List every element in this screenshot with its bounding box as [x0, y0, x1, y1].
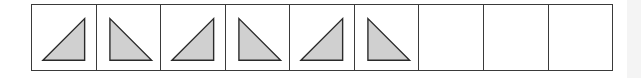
sequence-cell-1 [32, 5, 97, 70]
sequence-cell-5 [290, 5, 355, 70]
sequence-cell-2 [97, 5, 162, 70]
diagram-canvas [0, 0, 641, 78]
sequence-cell-4 [226, 5, 291, 70]
page-edge-shade [627, 0, 641, 78]
right-triangle-bottom-right-icon [161, 5, 225, 70]
right-triangle-bottom-left-icon [355, 5, 419, 70]
right-triangle-bottom-right-icon [32, 5, 96, 70]
sequence-cell-3 [161, 5, 226, 70]
right-triangle-bottom-left-icon [97, 5, 161, 70]
sequence-cell-9 [549, 5, 613, 70]
sequence-strip [31, 4, 613, 71]
sequence-cell-7 [419, 5, 484, 70]
sequence-cell-6 [355, 5, 420, 70]
sequence-cell-8 [484, 5, 549, 70]
right-triangle-bottom-right-icon [290, 5, 354, 70]
right-triangle-bottom-left-icon [226, 5, 290, 70]
